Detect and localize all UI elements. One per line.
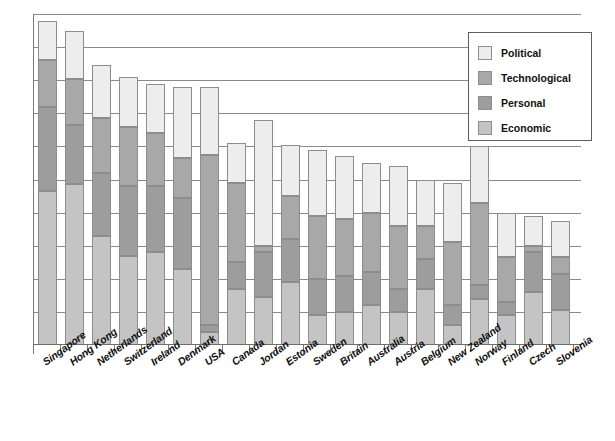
legend-swatch-economic [478, 121, 492, 135]
bar-segment-personal[interactable] [416, 259, 435, 289]
bar-segment-personal[interactable] [389, 289, 408, 312]
bar-netherlands[interactable] [92, 65, 111, 345]
bar-segment-economic[interactable] [38, 191, 57, 345]
bar-segment-political[interactable] [119, 77, 138, 127]
bar-segment-technological[interactable] [551, 257, 570, 274]
bar-canada[interactable] [227, 143, 246, 345]
bar-hong-kong[interactable] [65, 31, 84, 345]
bar-segment-technological[interactable] [173, 158, 192, 198]
legend-item-political[interactable]: Political [478, 40, 591, 65]
bar-segment-personal[interactable] [65, 125, 84, 185]
bar-segment-technological[interactable] [362, 213, 381, 273]
bar-segment-technological[interactable] [227, 183, 246, 262]
bar-segment-political[interactable] [308, 150, 327, 216]
bar-sweden[interactable] [308, 150, 327, 345]
bar-segment-political[interactable] [524, 216, 543, 246]
bar-norway[interactable] [470, 146, 489, 345]
bar-segment-personal[interactable] [227, 262, 246, 288]
bar-segment-political[interactable] [173, 87, 192, 158]
bar-czech[interactable] [524, 216, 543, 345]
bar-segment-personal[interactable] [497, 302, 516, 315]
bar-segment-personal[interactable] [92, 173, 111, 236]
bar-segment-technological[interactable] [524, 246, 543, 253]
bar-segment-technological[interactable] [443, 242, 462, 305]
bar-segment-personal[interactable] [443, 305, 462, 325]
bar-segment-political[interactable] [362, 163, 381, 213]
bar-segment-personal[interactable] [281, 239, 300, 282]
bar-segment-technological[interactable] [416, 226, 435, 259]
bar-segment-economic[interactable] [173, 269, 192, 345]
bar-segment-personal[interactable] [119, 186, 138, 256]
bar-segment-personal[interactable] [308, 279, 327, 315]
bar-segment-technological[interactable] [389, 226, 408, 289]
bar-segment-technological[interactable] [119, 127, 138, 187]
bar-segment-personal[interactable] [200, 325, 219, 332]
bar-segment-technological[interactable] [200, 155, 219, 325]
bar-segment-personal[interactable] [146, 186, 165, 252]
chart-legend: PoliticalTechnologicalPersonalEconomic [468, 32, 592, 141]
x-axis-tick [33, 345, 34, 354]
bar-segment-economic[interactable] [227, 289, 246, 345]
bar-segment-personal[interactable] [38, 107, 57, 191]
bar-segment-political[interactable] [38, 21, 57, 61]
bar-ireland[interactable] [146, 84, 165, 345]
legend-item-technological[interactable]: Technological [478, 65, 591, 90]
bar-segment-technological[interactable] [254, 246, 273, 253]
bar-usa[interactable] [200, 87, 219, 345]
bar-australia[interactable] [362, 163, 381, 345]
bar-segment-political[interactable] [146, 84, 165, 134]
bar-slovenia[interactable] [551, 221, 570, 345]
bar-segment-political[interactable] [389, 166, 408, 226]
legend-item-personal[interactable]: Personal [478, 90, 591, 115]
bar-segment-personal[interactable] [551, 274, 570, 310]
bar-finland[interactable] [497, 213, 516, 345]
bar-segment-political[interactable] [551, 221, 570, 257]
bar-segment-personal[interactable] [524, 252, 543, 292]
bar-segment-political[interactable] [335, 156, 354, 219]
bar-new-zealand[interactable] [443, 183, 462, 345]
bar-segment-economic[interactable] [65, 184, 84, 345]
bar-segment-personal[interactable] [254, 252, 273, 297]
legend-swatch-political [478, 46, 492, 60]
bar-segment-personal[interactable] [335, 276, 354, 312]
legend-item-economic[interactable]: Economic [478, 115, 591, 140]
bar-segment-political[interactable] [470, 146, 489, 202]
bar-segment-political[interactable] [200, 87, 219, 155]
bar-belgium[interactable] [416, 180, 435, 346]
bar-segment-political[interactable] [227, 143, 246, 183]
bar-segment-technological[interactable] [92, 118, 111, 173]
bar-segment-technological[interactable] [65, 79, 84, 125]
bar-singapore[interactable] [38, 21, 57, 345]
bar-estonia[interactable] [281, 145, 300, 345]
legend-label: Political [501, 47, 541, 59]
bar-segment-personal[interactable] [173, 198, 192, 269]
stacked-bar-chart: SingaporeHong KongNetherlandsSwitzerland… [0, 0, 615, 441]
bar-segment-technological[interactable] [281, 196, 300, 239]
bar-segment-political[interactable] [497, 213, 516, 258]
bar-segment-technological[interactable] [38, 60, 57, 106]
legend-label: Technological [501, 72, 571, 84]
bar-segment-economic[interactable] [551, 310, 570, 345]
bar-segment-technological[interactable] [308, 216, 327, 279]
bar-denmark[interactable] [173, 87, 192, 345]
bar-segment-political[interactable] [281, 145, 300, 196]
bar-segment-technological[interactable] [146, 133, 165, 186]
bar-segment-personal[interactable] [470, 285, 489, 298]
bar-segment-technological[interactable] [497, 257, 516, 302]
bar-segment-political[interactable] [443, 183, 462, 243]
legend-label: Personal [501, 97, 545, 109]
bar-segment-personal[interactable] [362, 272, 381, 305]
bar-britain[interactable] [335, 156, 354, 345]
bar-jordan[interactable] [254, 120, 273, 345]
bar-segment-political[interactable] [416, 180, 435, 226]
bar-segment-technological[interactable] [335, 219, 354, 275]
bar-switzerland[interactable] [119, 77, 138, 345]
bar-segment-political[interactable] [254, 120, 273, 246]
bar-segment-economic[interactable] [281, 282, 300, 345]
bar-segment-economic[interactable] [362, 305, 381, 345]
bar-segment-political[interactable] [92, 65, 111, 118]
bar-segment-technological[interactable] [470, 203, 489, 286]
y-axis-line [33, 14, 34, 345]
bar-segment-political[interactable] [65, 31, 84, 79]
bar-austria[interactable] [389, 166, 408, 345]
